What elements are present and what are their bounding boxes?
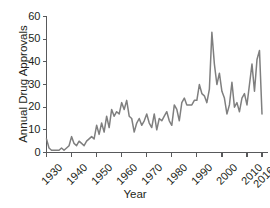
chart-container: 0102030405060 19301940195019601970198019… <box>0 0 270 208</box>
approvals-line <box>47 32 263 150</box>
data-series-line <box>47 32 263 150</box>
x-axis-title: Year <box>0 188 270 200</box>
axes-group <box>43 16 269 157</box>
y-axis-title: Annual Drug Approvals <box>17 9 29 159</box>
